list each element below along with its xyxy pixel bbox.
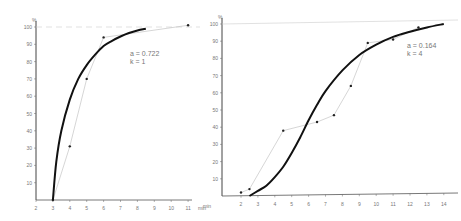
y-tick-label: 80 xyxy=(26,59,32,65)
x-axis xyxy=(222,193,458,196)
y-tick-label: 100 xyxy=(24,24,33,30)
data-point xyxy=(240,191,242,193)
y-tick-label: 60 xyxy=(212,90,218,96)
parameter-k-label: k = 1 xyxy=(130,58,145,65)
parameter-k-label: k = 4 xyxy=(407,50,422,57)
x-tick-label: 7 xyxy=(119,205,122,211)
x-tick-label: 11 xyxy=(390,201,395,207)
x-tick-label: 6 xyxy=(307,201,310,207)
left-chart: %102030405060708090100234567891011mina =… xyxy=(24,17,207,211)
data-point xyxy=(316,121,318,123)
x-tick-label: 5 xyxy=(290,201,293,207)
right-chart: %102030405060708090100234567891011121314… xyxy=(203,14,458,209)
data-point xyxy=(392,38,394,40)
y-tick-label: 70 xyxy=(26,76,32,82)
x-tick-label: 7 xyxy=(324,201,327,207)
data-point xyxy=(187,24,189,26)
x-tick-label: 14 xyxy=(441,201,447,207)
y-tick-label: 50 xyxy=(26,111,32,117)
reference-line-100 xyxy=(222,20,458,24)
data-point xyxy=(367,42,369,44)
data-point xyxy=(282,129,284,131)
y-tick-label: 80 xyxy=(212,55,218,61)
data-point xyxy=(102,36,104,38)
data-point xyxy=(86,78,88,80)
data-point xyxy=(333,114,335,116)
x-tick-label: 8 xyxy=(136,205,139,211)
parameter-a-label: a = 0.722 xyxy=(130,50,159,57)
y-tick-label: 30 xyxy=(212,141,218,147)
parameter-a-label: a = 0.164 xyxy=(407,42,436,49)
y-tick-label: 100 xyxy=(210,21,219,27)
y-tick-label: 10 xyxy=(212,176,218,182)
x-tick-label: 4 xyxy=(68,205,71,211)
data-point xyxy=(350,85,352,87)
y-tick-label: 20 xyxy=(26,162,32,168)
y-unit-label: % xyxy=(218,14,223,20)
x-tick-label: 8 xyxy=(341,201,344,207)
x-tick-label: 3 xyxy=(52,205,55,211)
y-tick-label: 10 xyxy=(26,180,32,186)
x-tick-label: 2 xyxy=(35,205,38,211)
y-tick-label: 60 xyxy=(26,93,32,99)
y-tick-label: 50 xyxy=(212,107,218,113)
x-tick-label: 9 xyxy=(153,205,156,211)
x-tick-label: 6 xyxy=(102,205,105,211)
x-tick-label: 11 xyxy=(185,205,190,211)
observed-line xyxy=(241,27,418,192)
x-tick-label: 13 xyxy=(424,201,430,207)
observed-line xyxy=(53,25,188,200)
x-unit-label: min xyxy=(203,203,211,209)
y-tick-label: 20 xyxy=(212,159,218,165)
y-unit-label: % xyxy=(32,17,37,23)
y-tick-label: 70 xyxy=(212,73,218,79)
x-tick-label: 10 xyxy=(373,201,379,207)
x-tick-label: 3 xyxy=(257,201,260,207)
data-point xyxy=(69,145,71,147)
y-tick-label: 40 xyxy=(212,124,218,130)
y-tick-label: 90 xyxy=(26,41,32,47)
x-tick-label: 5 xyxy=(85,205,88,211)
chart-canvas: %102030405060708090100234567891011mina =… xyxy=(0,0,461,221)
y-tick-label: 90 xyxy=(212,38,218,44)
x-tick-label: 12 xyxy=(407,201,413,207)
data-point xyxy=(248,188,250,190)
x-tick-label: 4 xyxy=(273,201,276,207)
x-tick-label: 9 xyxy=(358,201,361,207)
x-tick-label: 2 xyxy=(240,201,243,207)
x-tick-label: 10 xyxy=(168,205,174,211)
y-tick-label: 40 xyxy=(26,128,32,134)
y-tick-label: 30 xyxy=(26,145,32,151)
